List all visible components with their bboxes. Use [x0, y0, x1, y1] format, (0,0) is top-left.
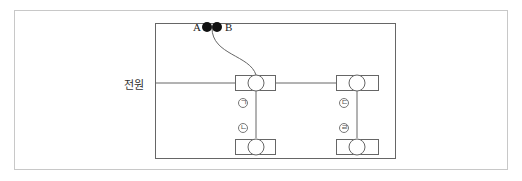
connector-label-b: B [225, 21, 232, 33]
connector-dot-a [202, 22, 212, 32]
connector-label-a: A [193, 21, 201, 33]
connector-wire [212, 28, 256, 75]
socket-top-right [337, 75, 379, 91]
socket-label-top-right: ㄷ [339, 98, 349, 108]
socket-bottom-right [337, 139, 379, 155]
socket-top-left [236, 75, 276, 91]
socket-label-top-left: ㄱ [238, 98, 248, 108]
socket-label-bottom-left: ㄴ [238, 123, 248, 133]
power-label: 전원 [124, 76, 144, 92]
connector-dot-b [212, 22, 222, 32]
circuit-diagram [0, 0, 522, 181]
socket-label-bottom-right: ㄹ [339, 123, 349, 133]
socket-bottom-left [236, 139, 276, 155]
